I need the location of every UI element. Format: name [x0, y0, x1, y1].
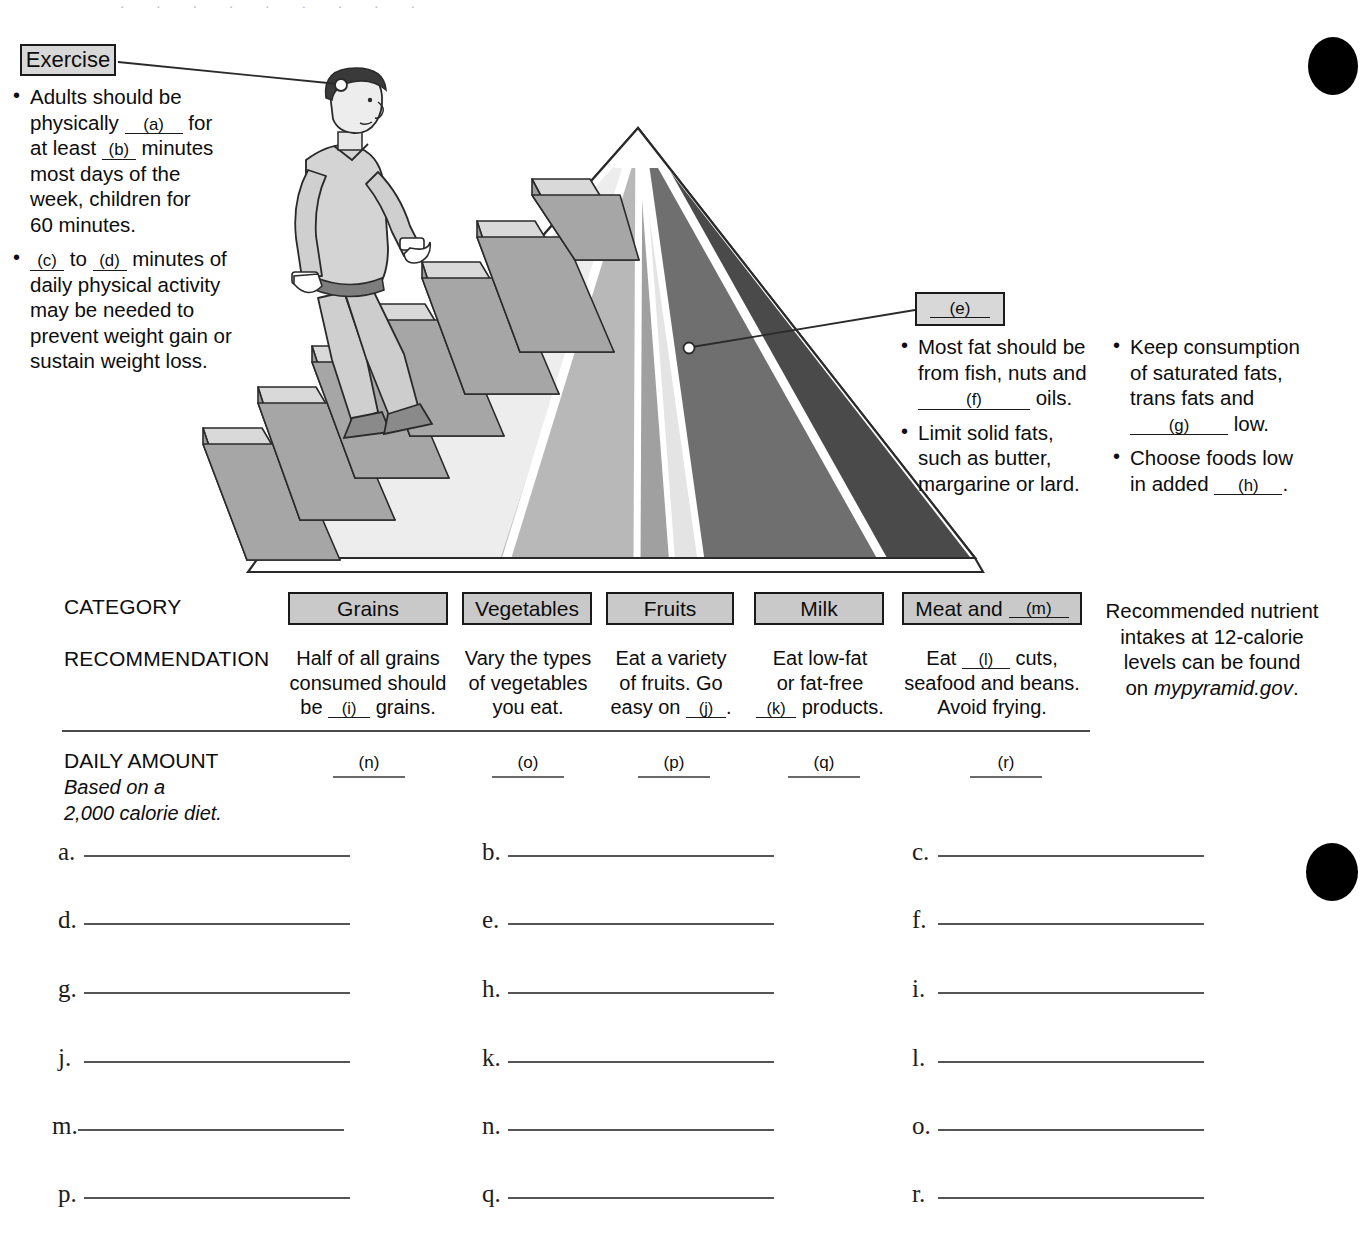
answer-line-b[interactable]	[508, 855, 774, 857]
answer-letter-m: m.	[52, 1112, 78, 1140]
answer-blank-q[interactable]: q.	[482, 1180, 774, 1208]
answer-blank-l[interactable]: l.	[912, 1044, 1204, 1072]
blank-m[interactable]: (m)	[1009, 599, 1069, 618]
answer-letter-b: b.	[482, 838, 508, 866]
answer-blank-m[interactable]: m.	[52, 1112, 344, 1140]
blank-h[interactable]: (h)	[1214, 477, 1282, 496]
exercise-b1-line2: physically	[30, 111, 119, 134]
answer-line-f[interactable]	[938, 923, 1204, 925]
answer-letter-l: l.	[912, 1044, 938, 1072]
exercise-b2-to: to	[70, 247, 87, 270]
answer-line-k[interactable]	[508, 1061, 774, 1063]
blank-k[interactable]: (k)	[756, 700, 796, 718]
blank-p[interactable]: (p)	[638, 753, 710, 778]
answer-line-h[interactable]	[508, 992, 774, 994]
category-label-grains: Grains	[337, 597, 399, 621]
mypyramid-url: mypyramid.gov	[1154, 676, 1293, 699]
answer-blank-f[interactable]: f.	[912, 906, 1204, 934]
category-box-meat-and-beans[interactable]: Meat and (m)	[902, 592, 1082, 625]
category-box-milk[interactable]: Milk	[754, 592, 884, 625]
answer-line-j[interactable]	[84, 1061, 350, 1063]
fats-b2-line1: Limit solid fats,	[918, 421, 1054, 444]
answer-line-i[interactable]	[938, 992, 1204, 994]
note-line-1: Recommended nutrient	[1105, 599, 1318, 622]
answer-blank-b[interactable]: b.	[482, 838, 774, 866]
fats-b1-line2: from fish, nuts and	[918, 361, 1087, 384]
fats-b3-line3: trans fats and	[1130, 386, 1254, 409]
blank-b[interactable]: (b)	[102, 141, 136, 160]
fats-callout-box: (e)	[915, 292, 1005, 326]
answer-line-o[interactable]	[938, 1129, 1204, 1131]
rec-milk-l2: or fat-free	[777, 672, 864, 694]
answer-blank-i[interactable]: i.	[912, 975, 1204, 1003]
exercise-callout-box: Exercise	[20, 44, 116, 76]
answer-letter-g: g.	[58, 975, 84, 1003]
answer-blank-d[interactable]: d.	[58, 906, 350, 934]
blank-e[interactable]: (e)	[930, 300, 990, 319]
answer-line-a[interactable]	[84, 855, 350, 857]
recommendation-cell-fruits: Eat a variety of fruits. Go easy on (j).	[602, 646, 740, 720]
answer-blank-h[interactable]: h.	[482, 975, 774, 1003]
answer-letter-c: c.	[912, 838, 938, 866]
answer-line-l[interactable]	[938, 1061, 1204, 1063]
answer-line-g[interactable]	[84, 992, 350, 994]
blank-d[interactable]: (d)	[93, 252, 127, 271]
blank-o[interactable]: (o)	[492, 753, 564, 778]
answer-blank-g[interactable]: g.	[58, 975, 350, 1003]
exercise-b2-line3: may be needed to	[30, 298, 194, 321]
answer-blank-r[interactable]: r.	[912, 1180, 1204, 1208]
exercise-b1-line5: week, children for	[30, 187, 191, 210]
fats-b3-low: low.	[1234, 412, 1269, 435]
binder-hole-mark-top	[1308, 37, 1358, 95]
category-box-fruits[interactable]: Fruits	[606, 592, 734, 625]
fats-b3-line1: Keep consumption	[1130, 335, 1300, 358]
answer-letter-f: f.	[912, 906, 938, 934]
answer-line-p[interactable]	[84, 1197, 350, 1199]
answer-letter-k: k.	[482, 1044, 508, 1072]
answer-line-d[interactable]	[84, 923, 350, 925]
answer-blank-n[interactable]: n.	[482, 1112, 774, 1140]
blank-a[interactable]: (a)	[125, 116, 183, 135]
answer-blank-c[interactable]: c.	[912, 838, 1204, 866]
exercise-b1-line4: most days of the	[30, 162, 180, 185]
daily-amount-label: DAILY AMOUNT Based on a 2,000 calorie di…	[64, 748, 284, 826]
answer-line-m[interactable]	[78, 1129, 344, 1131]
blank-j[interactable]: (j)	[686, 700, 726, 718]
blank-f[interactable]: (f)	[918, 391, 1030, 410]
answer-line-r[interactable]	[938, 1197, 1204, 1199]
blank-q[interactable]: (q)	[788, 753, 860, 778]
answer-blank-e[interactable]: e.	[482, 906, 774, 934]
blank-c[interactable]: (c)	[30, 252, 64, 271]
answer-line-e[interactable]	[508, 923, 774, 925]
rec-milk-l1: Eat low-fat	[773, 647, 867, 669]
answer-line-q[interactable]	[508, 1197, 774, 1199]
exercise-callout-label: Exercise	[26, 49, 110, 71]
category-label-milk: Milk	[800, 597, 837, 621]
rec-veg-l3: you eat.	[492, 696, 563, 718]
answer-blank-a[interactable]: a.	[58, 838, 350, 866]
category-box-grains[interactable]: Grains	[288, 592, 448, 625]
fats-b1-oils: oils.	[1036, 386, 1072, 409]
recommendation-row-label: RECOMMENDATION	[64, 646, 269, 671]
person-climbing-stairs	[292, 68, 432, 438]
rec-fruits-l2: of fruits. Go	[619, 672, 722, 694]
blank-i[interactable]: (i)	[328, 700, 370, 718]
category-box-vegetables[interactable]: Vegetables	[462, 592, 592, 625]
answer-blank-j[interactable]: j.	[58, 1044, 350, 1072]
answer-line-c[interactable]	[938, 855, 1204, 857]
answer-line-n[interactable]	[508, 1129, 774, 1131]
answer-letter-n: n.	[482, 1112, 508, 1140]
rec-fruits-l1: Eat a variety	[615, 647, 726, 669]
blank-l[interactable]: (l)	[962, 651, 1010, 669]
blank-r[interactable]: (r)	[970, 753, 1042, 778]
blank-g[interactable]: (g)	[1130, 417, 1228, 436]
recommendation-cell-vegetables: Vary the types of vegetables you eat.	[458, 646, 598, 720]
fats-bullet-2: Limit solid fats, such as butter, margar…	[900, 420, 1106, 497]
answer-blank-k[interactable]: k.	[482, 1044, 774, 1072]
blank-n[interactable]: (n)	[333, 753, 405, 778]
fats-bullet-1: Most fat should be from fish, nuts and (…	[900, 334, 1106, 411]
answer-blank-o[interactable]: o.	[912, 1112, 1204, 1140]
table-divider-rule	[62, 730, 1090, 732]
daily-amount-sub1: Based on a	[64, 776, 165, 798]
answer-blank-p[interactable]: p.	[58, 1180, 350, 1208]
